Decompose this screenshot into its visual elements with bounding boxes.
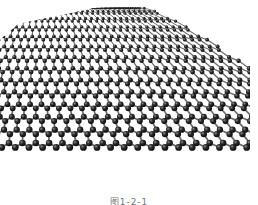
carbon-atom xyxy=(228,70,233,75)
carbon-atom xyxy=(61,17,64,20)
carbon-atom xyxy=(21,55,25,59)
carbon-atom xyxy=(105,44,109,48)
carbon-atom xyxy=(67,25,70,28)
carbon-atom xyxy=(1,89,6,94)
carbon-atom xyxy=(90,17,93,20)
carbon-atom xyxy=(71,19,74,22)
carbon-atom xyxy=(153,35,157,39)
carbon-atom xyxy=(14,118,20,124)
carbon-atom xyxy=(73,7,75,9)
carbon-atom xyxy=(81,114,87,120)
carbon-atom xyxy=(49,7,51,9)
carbon-atom xyxy=(118,12,121,15)
carbon-atom xyxy=(102,12,105,15)
carbon-atom xyxy=(6,93,11,98)
carbon-atom xyxy=(27,118,33,124)
carbon-atom xyxy=(91,12,94,15)
carbon-bond xyxy=(10,21,12,27)
carbon-atom xyxy=(32,12,35,15)
carbon-atom xyxy=(176,81,181,86)
carbon-atom xyxy=(6,66,11,71)
carbon-atom xyxy=(38,93,43,98)
carbon-atom xyxy=(135,48,139,52)
carbon-bond xyxy=(250,84,258,92)
carbon-atom xyxy=(153,10,156,13)
carbon-bond xyxy=(74,8,78,11)
carbon-atom xyxy=(45,7,47,9)
carbon-atom xyxy=(189,144,196,151)
carbon-atom xyxy=(72,7,75,10)
carbon-atom xyxy=(30,48,34,52)
carbon-atom xyxy=(21,7,24,10)
carbon-atom xyxy=(69,114,75,120)
carbon-atom xyxy=(139,59,143,63)
carbon-atom xyxy=(106,25,109,28)
carbon-atom xyxy=(13,48,17,52)
carbon-atom xyxy=(69,7,71,9)
carbon-atom xyxy=(50,7,52,9)
carbon-atom xyxy=(96,7,98,9)
carbon-atom xyxy=(152,48,156,52)
carbon-atom xyxy=(21,12,24,15)
carbon-atom xyxy=(42,7,44,9)
carbon-atom xyxy=(71,10,74,13)
carbon-bond xyxy=(0,27,3,30)
carbon-atom xyxy=(119,48,123,52)
carbon-atom xyxy=(31,28,35,32)
carbon-atom xyxy=(26,144,33,151)
carbon-atom xyxy=(89,66,94,71)
carbon-atom xyxy=(133,70,138,75)
carbon-atom xyxy=(94,81,99,86)
carbon-atom xyxy=(113,19,116,22)
carbon-atom xyxy=(59,7,61,9)
carbon-atom xyxy=(73,7,75,9)
carbon-bond xyxy=(21,13,22,18)
carbon-atom xyxy=(65,44,69,48)
carbon-bond xyxy=(10,11,12,13)
carbon-atom xyxy=(209,70,214,75)
carbon-bond xyxy=(256,130,258,134)
carbon-atom xyxy=(16,101,22,107)
carbon-atom xyxy=(7,59,11,63)
carbon-bond xyxy=(27,13,28,18)
carbon-atom xyxy=(101,7,103,9)
carbon-atom xyxy=(90,55,94,59)
carbon-atom xyxy=(137,17,140,20)
carbon-bond xyxy=(33,11,36,13)
carbon-atom xyxy=(86,140,93,147)
carbon-atom xyxy=(53,7,56,10)
carbon-atom xyxy=(59,19,62,22)
carbon-atom xyxy=(92,7,94,9)
carbon-atom xyxy=(53,7,55,9)
carbon-atom xyxy=(140,140,147,147)
carbon-bond xyxy=(24,18,27,21)
carbon-atom xyxy=(144,44,148,48)
carbon-atom xyxy=(78,59,82,63)
carbon-atom xyxy=(236,59,240,63)
carbon-atom xyxy=(25,59,29,63)
carbon-atom xyxy=(69,59,73,63)
carbon-atom xyxy=(68,7,70,9)
carbon-atom xyxy=(112,28,116,32)
carbon-atom xyxy=(50,44,54,48)
carbon-atom xyxy=(48,77,53,82)
carbon-atom xyxy=(10,19,13,22)
carbon-bond xyxy=(44,13,45,18)
carbon-atom xyxy=(152,44,156,48)
carbon-atom xyxy=(86,7,88,9)
carbon-atom xyxy=(68,77,73,82)
carbon-bond xyxy=(3,21,5,27)
carbon-atom xyxy=(64,7,66,9)
carbon-bond xyxy=(6,18,10,21)
carbon-atom xyxy=(17,7,19,9)
carbon-atom xyxy=(16,59,20,63)
carbon-atom xyxy=(33,140,40,147)
carbon-atom xyxy=(154,17,157,20)
carbon-atom xyxy=(71,131,77,137)
carbon-atom xyxy=(28,93,33,98)
carbon-atom xyxy=(108,38,112,42)
carbon-bond xyxy=(250,143,258,147)
carbon-bond xyxy=(15,11,17,13)
carbon-atom xyxy=(98,28,102,32)
carbon-atom xyxy=(77,7,79,9)
